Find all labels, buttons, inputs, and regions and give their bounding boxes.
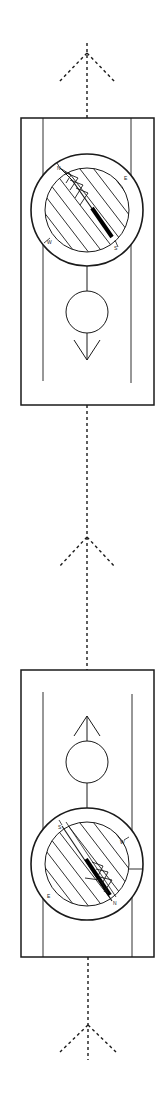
direction-of-travel-down: [66, 266, 108, 360]
compass-diagram: N E S W: [0, 0, 161, 1101]
label-n: N: [57, 165, 61, 171]
bottom-direction-arrow: [60, 957, 116, 1060]
label-w: W: [120, 839, 125, 845]
middle-direction-arrow: [59, 405, 115, 670]
compass-forward: N E S W: [0, 118, 161, 405]
top-direction-arrow: [59, 43, 115, 118]
label-n: N: [113, 900, 117, 906]
direction-of-travel-up: [66, 716, 108, 808]
label-w: W: [47, 239, 52, 245]
compass-reverse: S W E N: [0, 670, 161, 957]
